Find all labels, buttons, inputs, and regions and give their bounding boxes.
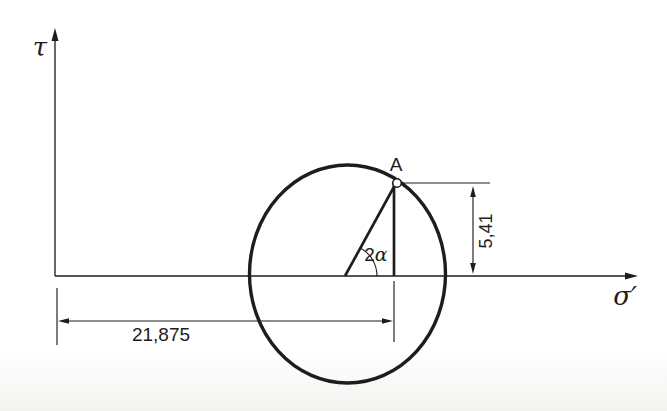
diagram-canvas: 21,875 5,41 2α A τ σ′	[0, 0, 667, 411]
vertical-dimension-arrow-bottom-icon	[470, 263, 476, 274]
vertical-dimension-arrow-top-icon	[470, 186, 476, 197]
point-a-marker	[393, 179, 402, 188]
angle-label-number: 2	[364, 244, 375, 265]
angle-label: 2α	[364, 243, 388, 265]
vertical-dimension-value: 5,41	[476, 213, 496, 248]
horizontal-dimension-arrow-right-icon	[382, 318, 393, 323]
alpha-symbol: α	[375, 243, 388, 265]
mohr-circle-figure: 21,875 5,41 2α A τ σ′	[0, 0, 667, 411]
point-a-label: A	[390, 154, 403, 175]
tau-axis-label: τ	[33, 32, 48, 62]
sigma-axis-arrowhead-icon	[625, 273, 638, 280]
horizontal-dimension-arrow-left-icon	[58, 318, 69, 323]
horizontal-dimension-value: 21,875	[132, 324, 190, 345]
tau-axis-arrowhead-icon	[52, 28, 59, 41]
sigma-axis-label: σ′	[613, 281, 637, 311]
